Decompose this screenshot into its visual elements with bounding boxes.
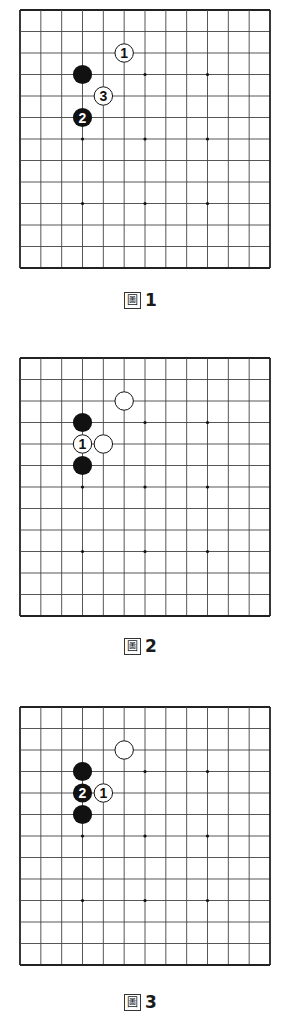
black-stone: [73, 413, 92, 432]
star-point: [206, 421, 209, 424]
star-point: [143, 485, 146, 488]
white-stone-1: 1: [94, 784, 112, 802]
star-point: [81, 899, 84, 902]
white-stone: [115, 392, 133, 410]
star-point: [206, 899, 209, 902]
board-grid: 1: [10, 348, 280, 626]
white-stone: [115, 741, 133, 759]
caption-prefix: 圖: [124, 292, 141, 309]
black-stone-2: 2: [73, 108, 92, 127]
star-point: [81, 485, 84, 488]
black-stone: [73, 805, 92, 824]
black-stone: [73, 456, 92, 475]
star-point: [143, 550, 146, 553]
star-point: [143, 202, 146, 205]
caption-number: 2: [145, 636, 157, 656]
board-grid: 21: [10, 697, 280, 975]
move-number: 2: [79, 110, 87, 126]
star-point: [81, 550, 84, 553]
move-number: 1: [79, 436, 87, 452]
caption-2: 圖 2: [0, 636, 281, 656]
move-number: 1: [99, 785, 107, 801]
star-point: [81, 202, 84, 205]
move-number: 1: [120, 45, 128, 61]
white-stone-1: 1: [73, 435, 91, 453]
move-number: 2: [79, 785, 87, 801]
go-board-1: 132: [20, 10, 270, 268]
caption-prefix: 圖: [124, 638, 141, 655]
star-point: [81, 834, 84, 837]
caption-1: 圖 1: [0, 290, 281, 310]
board-grid: 132: [10, 0, 280, 278]
star-point: [143, 421, 146, 424]
go-board-3: 21: [20, 707, 270, 965]
star-point: [206, 770, 209, 773]
black-stone: [73, 762, 92, 781]
white-stone-1: 1: [115, 44, 133, 62]
go-board-2: 1: [20, 358, 270, 616]
white-stone: [94, 435, 112, 453]
star-point: [206, 202, 209, 205]
star-point: [206, 485, 209, 488]
black-stone-2: 2: [73, 783, 92, 802]
star-point: [143, 137, 146, 140]
star-point: [143, 770, 146, 773]
star-point: [206, 834, 209, 837]
white-stone-3: 3: [94, 87, 112, 105]
caption-prefix: 圖: [124, 994, 141, 1011]
black-stone: [73, 65, 92, 84]
star-point: [143, 834, 146, 837]
move-number: 3: [99, 88, 107, 104]
star-point: [206, 550, 209, 553]
star-point: [206, 137, 209, 140]
caption-number: 3: [145, 992, 157, 1012]
star-point: [81, 137, 84, 140]
star-point: [206, 73, 209, 76]
star-point: [143, 73, 146, 76]
star-point: [143, 899, 146, 902]
caption-3: 圖 3: [0, 992, 281, 1012]
caption-number: 1: [145, 290, 157, 310]
